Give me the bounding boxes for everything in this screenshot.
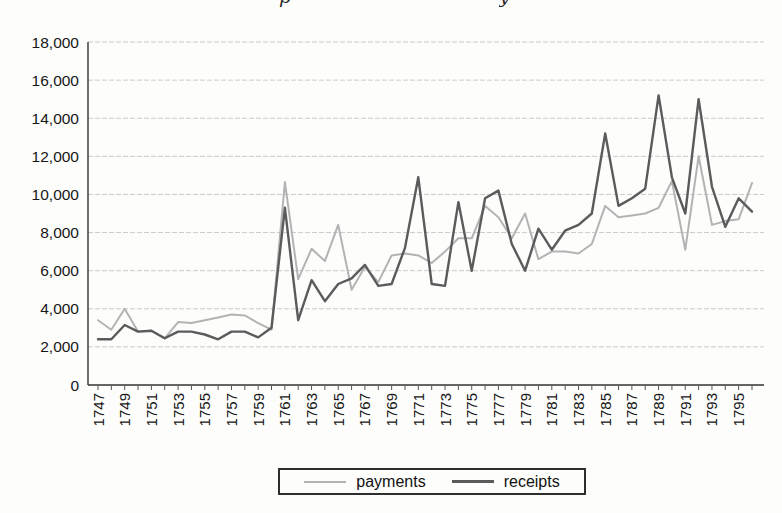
y-tick-label: 4,000	[40, 300, 79, 317]
legend-label-payments: payments	[356, 474, 425, 490]
x-tick-label: 1749	[116, 393, 133, 426]
x-tick-label: 1791	[677, 393, 694, 426]
x-tick-label: 1777	[490, 393, 507, 426]
y-tick-label: 8,000	[40, 224, 79, 241]
x-tick-label: 1755	[196, 393, 213, 426]
receipts-line	[98, 95, 752, 339]
x-tick-label: 1787	[623, 393, 640, 426]
x-tick-label: 1751	[143, 393, 160, 426]
x-tick-label: 1765	[330, 393, 347, 426]
y-tick-label: 18,000	[32, 34, 80, 51]
x-tick-label: 1783	[570, 393, 587, 426]
x-tick-label: 1779	[517, 393, 534, 426]
payments-receipts-line-chart: 02,0004,0006,0008,00010,00012,00014,0001…	[0, 0, 782, 513]
payments-line	[98, 156, 752, 338]
y-tick-label: 16,000	[32, 72, 80, 89]
x-tick-label: 1769	[383, 393, 400, 426]
legend-item-payments: payments	[304, 474, 425, 490]
x-tick-label: 1775	[463, 393, 480, 426]
y-tick-label: 12,000	[32, 148, 80, 165]
scanned-chart-page: p y 02,0004,0006,0008,00010,00012,00014,…	[0, 0, 782, 513]
payments-line-swatch	[304, 481, 346, 483]
x-tick-label: 1789	[650, 393, 667, 426]
x-tick-label: 1747	[90, 393, 107, 426]
y-tick-label: 14,000	[32, 110, 80, 127]
x-tick-label: 1793	[703, 393, 720, 426]
y-tick-label: 10,000	[32, 186, 80, 203]
x-tick-label: 1767	[356, 393, 373, 426]
legend-label-receipts: receipts	[504, 474, 560, 490]
x-tick-label: 1795	[730, 393, 747, 426]
x-tick-label: 1757	[223, 393, 240, 426]
y-tick-label: 2,000	[40, 338, 79, 355]
x-tick-label: 1763	[303, 393, 320, 426]
x-tick-label: 1781	[543, 393, 560, 426]
receipts-line-swatch	[452, 480, 494, 482]
chart-legend: payments receipts	[278, 468, 586, 495]
x-tick-label: 1761	[276, 393, 293, 426]
x-tick-label: 1753	[170, 393, 187, 426]
legend-item-receipts: receipts	[452, 474, 560, 490]
x-tick-label: 1759	[250, 393, 267, 426]
y-tick-label: 6,000	[40, 262, 79, 279]
x-tick-label: 1785	[597, 393, 614, 426]
x-tick-label: 1773	[437, 393, 454, 426]
x-tick-label: 1771	[410, 393, 427, 426]
y-tick-label: 0	[70, 377, 79, 394]
